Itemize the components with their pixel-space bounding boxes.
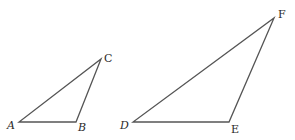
vertex-label-c: C [104, 52, 112, 65]
vertex-label-f: F [278, 8, 286, 21]
triangle-abc [19, 59, 101, 122]
vertex-label-b: B [77, 121, 86, 134]
diagram-svg: A B C D E F [0, 0, 295, 140]
vertex-label-a: A [6, 119, 15, 132]
vertex-label-d: D [119, 119, 129, 132]
similar-triangles-diagram: A B C D E F [0, 0, 295, 140]
triangle-def [133, 18, 274, 122]
vertex-label-e: E [231, 123, 239, 136]
